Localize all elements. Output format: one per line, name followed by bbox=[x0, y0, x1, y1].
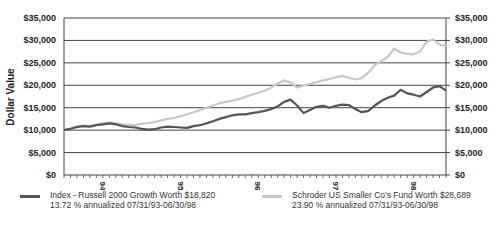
legend-text-index-line2: 13.72 % annualized 07/31/93-06/30/98 bbox=[50, 200, 215, 210]
y-axis-title: Dollar Value bbox=[5, 68, 16, 126]
y-tick-label-left: $25,000 bbox=[23, 58, 56, 68]
legend-swatch-fund bbox=[262, 195, 282, 198]
y-tick-label-right: $20,000 bbox=[455, 80, 488, 90]
y-tick-label-right: $0 bbox=[455, 170, 465, 180]
y-tick-label-right: $5,000 bbox=[455, 148, 483, 158]
x-tick-label: 96 bbox=[253, 182, 262, 190]
legend-item-index: Index - Russell 2000 Growth Worth $18,82… bbox=[20, 190, 215, 210]
legend-text-index-line1: Index - Russell 2000 Growth Worth $18,82… bbox=[50, 190, 215, 200]
y-tick-label-left: $15,000 bbox=[23, 103, 56, 113]
y-axis-left: $0$5,000$10,000$15,000$20,000$25,000$30,… bbox=[23, 13, 56, 180]
y-tick-label-right: $30,000 bbox=[455, 35, 488, 45]
legend-text-fund-line2: 23.90 % annualized 07/31/93-06/30/98 bbox=[292, 200, 471, 210]
x-tick-label: 94 bbox=[98, 182, 107, 190]
x-tick-label: 95 bbox=[176, 182, 185, 190]
x-tick-label: 98 bbox=[409, 182, 418, 190]
y-tick-label-left: $10,000 bbox=[23, 125, 56, 135]
y-tick-label-left: $30,000 bbox=[23, 35, 56, 45]
y-tick-label-right: $35,000 bbox=[455, 13, 488, 23]
legend-text-fund-line1: Schroder US Smaller Co's Fund Worth $28,… bbox=[292, 190, 471, 200]
y-tick-label-left: $20,000 bbox=[23, 80, 56, 90]
legend-swatch-index bbox=[20, 195, 40, 198]
y-tick-label-right: $15,000 bbox=[455, 103, 488, 113]
line-chart: $0$5,000$10,000$15,000$20,000$25,000$30,… bbox=[0, 0, 496, 190]
y-tick-label-left: $0 bbox=[46, 170, 56, 180]
y-tick-label-left: $5,000 bbox=[28, 148, 56, 158]
legend-item-fund: Schroder US Smaller Co's Fund Worth $28,… bbox=[262, 190, 471, 210]
y-tick-label-right: $25,000 bbox=[455, 58, 488, 68]
y-axis-right: $0$5,000$10,000$15,000$20,000$25,000$30,… bbox=[446, 13, 488, 180]
x-tick-label: 97 bbox=[331, 182, 340, 190]
y-tick-label-right: $10,000 bbox=[455, 125, 488, 135]
y-tick-label-left: $35,000 bbox=[23, 13, 56, 23]
x-axis: 9495969798 bbox=[64, 175, 446, 190]
